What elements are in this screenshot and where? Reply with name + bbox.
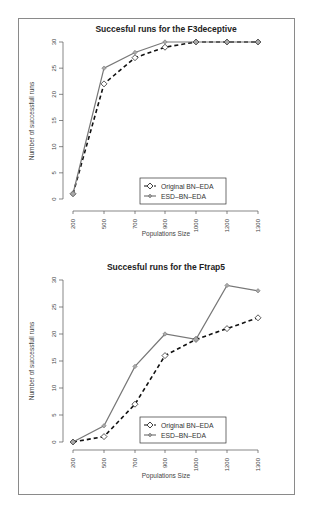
open-diamond-marker-icon — [101, 434, 107, 440]
legend-label-esd: ESD–BN–EDA — [161, 193, 206, 200]
figure-canvas: Succesful runs for the F3deceptive 05101… — [0, 0, 313, 508]
x-tick-label: 1200 — [224, 218, 230, 232]
legend-label-original: Original BN–EDA — [161, 422, 214, 430]
y-tick-label: 15 — [51, 357, 57, 364]
diamond-marker-icon — [163, 40, 167, 44]
y-tick-label: 30 — [51, 276, 57, 283]
x-tick-label: 700 — [132, 457, 138, 468]
y-tick-label: 15 — [51, 117, 57, 124]
y-tick-label: 10 — [51, 143, 57, 150]
legend-label-esd: ESD–BN–EDA — [161, 432, 206, 439]
diamond-marker-icon — [256, 289, 260, 293]
x-tick-label: 1000 — [193, 457, 199, 471]
open-diamond-marker-icon — [162, 353, 168, 359]
legend: Original BN–EDA ESD–BN–EDA — [140, 417, 226, 443]
y-tick-label: 25 — [51, 303, 57, 310]
y-tick-label: 25 — [51, 64, 57, 71]
x-axis-label: Populations Size — [142, 472, 191, 480]
chart-f3deceptive: Succesful runs for the F3deceptive 05101… — [28, 24, 261, 238]
y-tick-label: 20 — [51, 90, 57, 97]
open-diamond-marker-icon — [101, 81, 107, 87]
y-axis-label: Number of successfull runs — [28, 321, 35, 400]
y-axis: 051015202530 — [51, 38, 63, 201]
open-diamond-marker-icon — [224, 326, 230, 332]
x-tick-label: 200 — [70, 457, 76, 468]
y-tick-label: 0 — [51, 440, 57, 444]
open-diamond-marker-icon — [132, 55, 138, 61]
x-axis-label: Populations Size — [142, 230, 191, 238]
y-axis: 051015202530 — [51, 276, 63, 444]
x-tick-label: 1300 — [255, 457, 261, 471]
chart-ftrap5: Succesful runs for the Ftrap5 0510152025… — [28, 262, 261, 480]
x-tick-label: 200 — [70, 218, 76, 229]
series-line-1 — [73, 42, 258, 194]
y-axis-label: Number of successfull runs — [28, 81, 35, 160]
legend: Original BN–EDA ESD–BN–EDA — [140, 178, 226, 204]
x-tick-label: 1200 — [224, 457, 230, 471]
open-diamond-marker-icon — [255, 315, 261, 321]
y-tick-label: 10 — [51, 384, 57, 391]
series-line-0 — [73, 42, 258, 194]
x-tick-label: 1300 — [255, 218, 261, 232]
y-tick-label: 20 — [51, 330, 57, 337]
y-tick-label: 30 — [51, 38, 57, 45]
y-tick-label: 0 — [51, 197, 57, 201]
diamond-marker-icon — [102, 66, 106, 70]
x-tick-label: 500 — [101, 218, 107, 229]
y-tick-label: 5 — [51, 171, 57, 175]
x-tick-label: 500 — [101, 457, 107, 468]
chart-title: Succesful runs for the Ftrap5 — [107, 262, 225, 272]
x-tick-label: 1000 — [193, 218, 199, 232]
diamond-marker-icon — [133, 50, 137, 54]
chart-title: Succesful runs for the F3deceptive — [95, 24, 237, 34]
open-diamond-marker-icon — [162, 44, 168, 50]
x-tick-label: 900 — [162, 218, 168, 229]
series-lines — [70, 39, 261, 197]
legend-label-original: Original BN–EDA — [161, 183, 214, 191]
x-axis: 200500700900100012001300 — [70, 450, 261, 471]
diamond-marker-icon — [102, 424, 106, 428]
x-tick-label: 700 — [132, 218, 138, 229]
x-tick-label: 900 — [162, 457, 168, 468]
y-tick-label: 5 — [51, 413, 57, 417]
